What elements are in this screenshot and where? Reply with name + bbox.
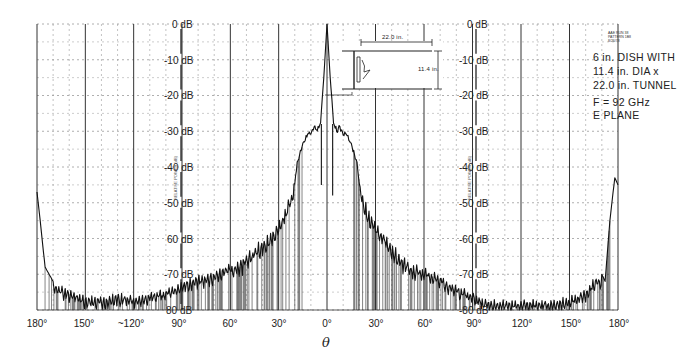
x-tick: 120° (512, 318, 533, 329)
db-label: -30 dB (459, 126, 488, 137)
annotation-line: 22.0 in. TUNNEL (593, 78, 677, 92)
db-label: -10 dB (164, 55, 193, 66)
annotation-line: 6 in. DISH WITH (593, 50, 675, 64)
db-label: -70 dB (164, 269, 193, 280)
y-axis-side-label: RELATIVE POWER (dB) (173, 156, 178, 200)
tunnel-length-label: 22.0 in. (382, 34, 403, 40)
db-label: 0 dB (172, 19, 193, 30)
major-grid (37, 24, 618, 310)
stamp-line: 8/26/78 (608, 39, 631, 43)
db-label: 60 dB (167, 234, 193, 245)
db-label: -60 dB (459, 234, 488, 245)
y-axis-side-label: RELATIVE POWER (dB) (467, 156, 472, 200)
x-tick: 90° (466, 318, 481, 329)
db-label: -30 dB (164, 126, 193, 137)
x-tick: 180° (27, 318, 48, 329)
frequency-label: F = 92 GHz (593, 95, 650, 109)
db-label: 0 dB (467, 19, 488, 30)
x-tick: 150° (561, 318, 582, 329)
db-label: -50 dB (459, 198, 488, 209)
db-label: -10 dB (459, 55, 488, 66)
db-label: -80 dB (459, 305, 488, 316)
x-tick: 0° (322, 318, 332, 329)
db-label: -20 dB (459, 90, 488, 101)
db-label: -50 dB (164, 198, 193, 209)
tunnel-diameter-label: 11.4 in. (418, 66, 439, 72)
x-tick: 60° (417, 318, 432, 329)
db-label: -20 dB (164, 90, 193, 101)
db-label: -70 dB (459, 269, 488, 280)
db-label: -40 dB (164, 162, 193, 173)
db-label: 80 dB (166, 305, 192, 316)
plane-label: E PLANE (593, 108, 639, 122)
x-tick: ~120° (118, 318, 145, 329)
x-tick: 180° (609, 318, 630, 329)
x-tick: 30° (271, 318, 286, 329)
annotation-line: 11.4 in. DIA x (593, 64, 659, 78)
x-tick: 30° (368, 318, 383, 329)
x-tick: 150° (74, 318, 95, 329)
db-label: -40 dB (459, 162, 488, 173)
x-tick: 60° (222, 318, 237, 329)
x-tick: 90° (171, 318, 186, 329)
x-axis-label: θ (322, 335, 330, 350)
run-stamp: AAE RUN 38 PATTERN 1B8 8/26/78 (608, 31, 631, 43)
